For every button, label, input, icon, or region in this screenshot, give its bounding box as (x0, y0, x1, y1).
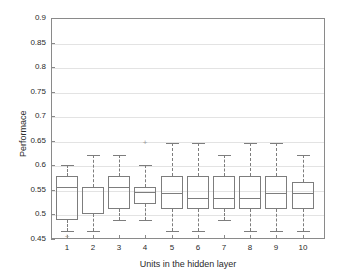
box-whisker-cap-lower (87, 231, 100, 232)
box-median-line (82, 187, 104, 188)
box-outlier-marker: + (140, 139, 150, 147)
x-axis-tick (250, 235, 251, 239)
x-axis-tick-label: 4 (135, 244, 155, 252)
box-whisker-cap-upper (87, 155, 100, 156)
y-axis-tick (51, 67, 55, 68)
y-axis-tick (51, 18, 55, 19)
x-axis-tick-label: 6 (188, 244, 208, 252)
y-axis-tick (51, 239, 55, 240)
y-axis-tick (51, 165, 55, 166)
x-axis-tick-label: 3 (109, 244, 129, 252)
box-median-line (161, 193, 183, 194)
y-axis-tick-label: 0.8 (18, 63, 46, 71)
box-whisker-cap-lower (297, 231, 310, 232)
box-rect (108, 176, 130, 208)
y-axis-tick-label: 0.55 (18, 186, 46, 194)
box-whisker-upper (198, 143, 199, 176)
x-axis-tick-label: 9 (266, 244, 286, 252)
box-rect (292, 182, 314, 209)
box-whisker-cap-lower (166, 231, 179, 232)
x-axis-tick (303, 235, 304, 239)
x-axis-tick (145, 235, 146, 239)
box-rect (56, 176, 78, 220)
box-whisker-upper (145, 165, 146, 187)
box-whisker-lower (276, 209, 277, 231)
box-whisker-cap-upper (270, 143, 283, 144)
y-axis-tick-label: 0.7 (18, 112, 46, 120)
y-gridline (52, 142, 324, 143)
x-axis-tick (198, 235, 199, 239)
box-rect (134, 187, 156, 203)
box-whisker-lower (303, 209, 304, 231)
y-axis-tick-label: 0.9 (18, 14, 46, 22)
box-median-line (108, 187, 130, 188)
box-whisker-cap-upper (244, 143, 257, 144)
x-axis-tick-label: 8 (240, 244, 260, 252)
x-axis-tick-label: 7 (214, 244, 234, 252)
box-whisker-upper (250, 143, 251, 176)
box-median-line (56, 187, 78, 188)
box-median-line (265, 193, 287, 194)
box-whisker-upper (303, 155, 304, 183)
box-median-line (134, 192, 156, 193)
box-whisker-cap-lower (270, 231, 283, 232)
y-axis-tick (51, 141, 55, 142)
box-whisker-cap-upper (218, 155, 231, 156)
box-whisker-lower (224, 209, 225, 220)
x-axis-tick-label: 10 (293, 244, 313, 252)
box-whisker-cap-upper (113, 155, 126, 156)
box-whisker-cap-lower (113, 220, 126, 221)
box-whisker-lower (172, 209, 173, 231)
y-axis-tick-label: 0.75 (18, 88, 46, 96)
y-axis-tick (51, 214, 55, 215)
box-median-line (239, 198, 261, 199)
box-whisker-lower (67, 220, 68, 230)
box-whisker-upper (119, 155, 120, 177)
y-gridline (52, 68, 324, 69)
x-axis-tick-label: 5 (162, 244, 182, 252)
box-whisker-lower (198, 209, 199, 231)
x-axis-tick (276, 235, 277, 239)
y-axis-tick (51, 43, 55, 44)
box-whisker-lower (119, 209, 120, 220)
x-axis-tick (119, 235, 120, 239)
box-whisker-cap-lower (192, 231, 205, 232)
box-whisker-upper (93, 155, 94, 188)
box-outlier-marker: + (62, 233, 72, 241)
box-whisker-cap-upper (297, 155, 310, 156)
box-whisker-upper (172, 143, 173, 176)
y-axis-tick (51, 92, 55, 93)
box-whisker-upper (276, 143, 277, 176)
box-whisker-lower (145, 204, 146, 220)
y-axis-tick-label: 0.85 (18, 39, 46, 47)
y-axis-tick-label: 0.6 (18, 161, 46, 169)
y-axis-tick (51, 190, 55, 191)
box-whisker-cap-upper (139, 165, 152, 166)
box-whisker-upper (67, 165, 68, 176)
x-axis-tick-label: 1 (57, 244, 77, 252)
box-median-line (213, 198, 235, 199)
y-gridline (52, 44, 324, 45)
box-whisker-cap-lower (244, 231, 257, 232)
boxplot-figure: Performace Units in the hidden layer 0.4… (0, 0, 343, 276)
y-axis-tick-label: 0.45 (18, 235, 46, 243)
box-whisker-cap-upper (166, 143, 179, 144)
y-gridline (52, 117, 324, 118)
box-rect (82, 187, 104, 214)
x-axis-title: Units in the hidden layer (51, 259, 325, 269)
box-rect (213, 176, 235, 209)
x-axis-tick (93, 235, 94, 239)
box-whisker-lower (93, 214, 94, 230)
box-rect (187, 176, 209, 209)
x-axis-tick (172, 235, 173, 239)
y-axis-tick (51, 116, 55, 117)
y-axis-tick-label: 0.65 (18, 137, 46, 145)
box-median-line (292, 193, 314, 194)
y-axis-tick-label: 0.5 (18, 210, 46, 218)
box-whisker-cap-lower (139, 220, 152, 221)
x-axis-tick-label: 2 (83, 244, 103, 252)
box-whisker-cap-lower (218, 220, 231, 221)
box-whisker-cap-upper (192, 143, 205, 144)
box-whisker-cap-upper (61, 165, 74, 166)
box-rect (239, 176, 261, 209)
